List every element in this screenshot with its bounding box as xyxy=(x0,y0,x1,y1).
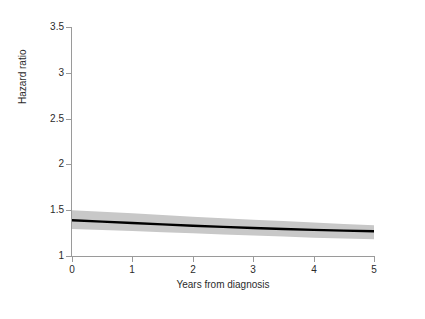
x-tick-mark xyxy=(314,257,315,262)
y-tick-label: 1 xyxy=(58,251,64,261)
x-tick-label: 1 xyxy=(129,265,135,275)
y-tick-label: 3.5 xyxy=(50,22,64,32)
chart-figure: 11.522.533.5 012345 Hazard ratio Years f… xyxy=(0,0,425,319)
x-axis-line xyxy=(71,256,375,257)
y-axis-title: Hazard ratio xyxy=(18,50,28,104)
y-tick-label: 2 xyxy=(58,159,64,169)
x-tick-label: 5 xyxy=(371,265,377,275)
y-tick-mark xyxy=(66,73,71,74)
x-tick-mark xyxy=(132,257,133,262)
x-tick-label: 4 xyxy=(311,265,317,275)
plot-svg xyxy=(72,27,374,256)
x-tick-mark xyxy=(72,257,73,262)
plot-area xyxy=(72,27,374,256)
y-tick-mark xyxy=(66,119,71,120)
y-tick-label: 2.5 xyxy=(50,114,64,124)
y-tick-mark xyxy=(66,27,71,28)
x-tick-label: 2 xyxy=(190,265,196,275)
y-tick-mark xyxy=(66,210,71,211)
y-tick-mark xyxy=(66,256,71,257)
y-axis-line xyxy=(71,27,72,257)
y-tick-label: 3 xyxy=(58,68,64,78)
x-tick-mark xyxy=(374,257,375,262)
x-tick-label: 0 xyxy=(69,265,75,275)
x-tick-mark xyxy=(253,257,254,262)
x-tick-label: 3 xyxy=(250,265,256,275)
x-tick-mark xyxy=(193,257,194,262)
graph-region: 11.522.533.5 012345 Hazard ratio Years f… xyxy=(0,0,425,319)
confidence-interval-band xyxy=(72,210,374,239)
y-tick-label: 1.5 xyxy=(50,205,64,215)
y-tick-mark xyxy=(66,164,71,165)
x-axis-title: Years from diagnosis xyxy=(72,280,374,290)
